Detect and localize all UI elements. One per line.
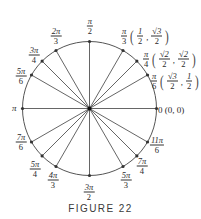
- label-7pi-over-4: 7π4: [137, 157, 148, 176]
- label-7pi-over-6: 7π6: [16, 133, 27, 152]
- label-2pi-over-3: 2π3: [51, 27, 62, 46]
- angle-point: [30, 140, 33, 143]
- angle-point: [135, 60, 138, 63]
- label-pi-over-3-point: π3 ( 12 , √32 ): [121, 27, 170, 46]
- label-pi-over-2: π2: [87, 17, 93, 36]
- angle-point: [41, 154, 44, 157]
- angle-point: [121, 49, 124, 52]
- angle-point: [30, 73, 33, 76]
- label-pi-over-4-point: π4 ( √22 , √22 ): [143, 50, 197, 69]
- angle-point: [88, 40, 91, 43]
- angle-point: [54, 165, 57, 168]
- label-zero-origin: 0 (0, 0): [158, 105, 184, 115]
- angle-point: [121, 165, 124, 168]
- label-5pi-over-4: 5π4: [30, 160, 41, 179]
- label-4pi-over-3: 4π3: [48, 171, 59, 190]
- angle-point: [54, 49, 57, 52]
- label-pi-over-6-point: π6 ( √32 , 12 ): [151, 72, 200, 91]
- label-pi: π: [12, 103, 17, 113]
- label-3pi-over-4: 3π4: [29, 46, 40, 65]
- figure-caption: FIGURE 22: [0, 203, 201, 214]
- angle-point: [88, 174, 91, 177]
- angle-point: [146, 140, 149, 143]
- angle-point: [146, 73, 149, 76]
- origin-point: [88, 107, 92, 111]
- label-3pi-over-2: 3π2: [84, 183, 95, 202]
- label-11pi-over-6: 11π6: [150, 136, 164, 155]
- angle-point: [21, 107, 24, 110]
- label-5pi-over-3: 5π3: [121, 171, 132, 190]
- label-5pi-over-6: 5π6: [16, 67, 27, 86]
- angle-point: [41, 60, 44, 63]
